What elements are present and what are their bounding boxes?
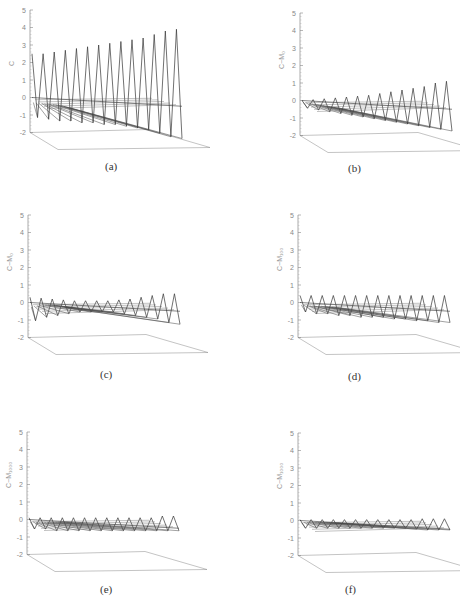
z-tick-label: 3 <box>292 45 296 52</box>
z-tick-label: -2 <box>288 334 294 341</box>
z-tick-label: 4 <box>22 24 26 31</box>
z-tick-label: 2 <box>292 62 296 69</box>
z-tick-label: -1 <box>288 535 294 542</box>
z-axis-label: C−M₀ <box>6 253 13 271</box>
panel-caption: (f) <box>345 583 356 595</box>
z-tick-label: 1 <box>290 282 294 289</box>
z-tick-label: 2 <box>290 264 294 271</box>
chart-panel-e: 543210-1-2C−M₁₀₀₀(e) <box>0 400 225 595</box>
z-tick-label: 5 <box>20 212 24 219</box>
chart-panel-d: 543210-1-2C−M₁₀₀(d) <box>230 200 455 395</box>
z-tick-label: 3 <box>20 247 24 254</box>
z-axis-label: C−M₁₀₀₀ <box>5 462 12 488</box>
z-tick-label: 5 <box>19 429 23 436</box>
z-tick-label: 4 <box>20 229 24 236</box>
surface-plot: 543210-1-2 <box>230 200 460 400</box>
panel-caption: (e) <box>100 583 112 595</box>
z-tick-label: 0 <box>292 97 296 104</box>
z-tick-label: 0 <box>290 299 294 306</box>
chart-panel-f: 543210-1-2C−M₁₀₀₀(f) <box>230 400 455 595</box>
z-tick-label: 2 <box>19 481 23 488</box>
z-tick-label: 3 <box>290 465 294 472</box>
z-tick-label: -1 <box>290 115 296 122</box>
panel-caption: (a) <box>105 160 117 172</box>
z-tick-label: 1 <box>292 80 296 87</box>
z-tick-label: 1 <box>20 282 24 289</box>
z-tick-label: 0 <box>19 516 23 523</box>
panel-caption: (c) <box>100 368 112 380</box>
panel-caption: (b) <box>348 162 361 174</box>
panel-caption: (d) <box>348 370 361 382</box>
z-tick-label: 2 <box>22 59 26 66</box>
z-tick-label: 4 <box>290 229 294 236</box>
z-tick-label: 5 <box>290 430 294 437</box>
z-tick-label: 5 <box>22 7 26 14</box>
z-tick-label: -2 <box>288 552 294 559</box>
z-tick-label: -1 <box>18 317 24 324</box>
z-axis-label: C−M₀ <box>278 51 285 69</box>
z-tick-label: -2 <box>20 129 26 136</box>
chart-panel-a: 543210-1-2C(a) <box>0 0 225 195</box>
surface-plot: 543210-1-2 <box>0 400 230 600</box>
z-tick-label: 1 <box>19 499 23 506</box>
surface-plot: 543210-1-2 <box>230 0 460 200</box>
z-tick-label: 3 <box>19 464 23 471</box>
z-tick-label: 4 <box>292 27 296 34</box>
z-tick-label: 3 <box>290 247 294 254</box>
z-tick-label: -1 <box>20 112 26 119</box>
z-tick-label: 4 <box>290 447 294 454</box>
z-axis-label: C−M₁₀₀₀ <box>276 463 283 489</box>
z-axis-label: C <box>8 61 15 66</box>
z-tick-label: 2 <box>290 482 294 489</box>
z-tick-label: 4 <box>19 446 23 453</box>
z-tick-label: 1 <box>290 500 294 507</box>
z-tick-label: 0 <box>22 94 26 101</box>
z-tick-label: 5 <box>290 212 294 219</box>
z-tick-label: -1 <box>17 534 23 541</box>
z-tick-label: 1 <box>22 77 26 84</box>
z-tick-label: -2 <box>18 334 24 341</box>
z-tick-label: 3 <box>22 42 26 49</box>
chart-panel-b: 543210-1-2C−M₀(b) <box>230 0 455 195</box>
surface-plot: 543210-1-2 <box>230 400 460 600</box>
chart-panel-c: 543210-1-2C−M₀(c) <box>0 200 225 395</box>
surface-front-curve <box>32 29 182 138</box>
surface-plot: 543210-1-2 <box>0 200 230 400</box>
z-tick-label: 5 <box>292 10 296 17</box>
z-tick-label: -1 <box>288 317 294 324</box>
z-tick-label: 2 <box>20 264 24 271</box>
z-tick-label: -2 <box>17 551 23 558</box>
z-axis-label: C−M₁₀₀ <box>276 248 283 271</box>
z-tick-label: 0 <box>290 517 294 524</box>
z-tick-label: 0 <box>20 299 24 306</box>
z-tick-label: -2 <box>290 132 296 139</box>
